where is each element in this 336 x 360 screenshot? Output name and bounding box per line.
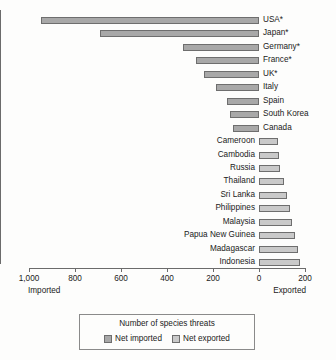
bar-category-label: Canada bbox=[263, 121, 292, 134]
bar-category-label: Japan* bbox=[263, 26, 289, 39]
bar-category-label: Indonesia bbox=[219, 255, 255, 268]
bar-imported bbox=[233, 125, 259, 132]
legend-swatch-icon bbox=[172, 335, 180, 343]
axis-label-exported: Exported bbox=[273, 286, 306, 295]
bar-category-label: South Korea bbox=[263, 107, 309, 120]
bar-imported bbox=[41, 17, 260, 24]
legend-label: Net exported bbox=[183, 334, 230, 343]
bar-category-label: Malaysia bbox=[223, 215, 255, 228]
legend-items: Net importedNet exported bbox=[80, 334, 254, 343]
bar-imported bbox=[196, 57, 259, 64]
bar-imported bbox=[227, 98, 259, 105]
axis-label-imported: Imported bbox=[28, 286, 60, 295]
bar-row: Sri Lanka bbox=[0, 189, 336, 203]
x-tick bbox=[167, 268, 168, 272]
bar-imported bbox=[230, 111, 259, 118]
bar-row: Malaysia bbox=[0, 216, 336, 230]
bar-row: Madagascar bbox=[0, 243, 336, 257]
bar-row: France* bbox=[0, 54, 336, 68]
bar-imported bbox=[216, 84, 259, 91]
bar-row: Papua New Guinea bbox=[0, 229, 336, 243]
bar-row: Russia bbox=[0, 162, 336, 176]
bar-category-label: Germany* bbox=[263, 40, 300, 53]
bar-category-label: Thailand bbox=[224, 174, 255, 187]
bar-exported bbox=[259, 165, 280, 172]
x-tick bbox=[213, 268, 214, 272]
legend-item: Net imported bbox=[104, 334, 162, 343]
bar-exported bbox=[259, 219, 292, 226]
x-tick bbox=[29, 268, 30, 272]
x-tick bbox=[259, 268, 260, 272]
legend-item: Net exported bbox=[172, 334, 230, 343]
legend-title: Number of species threats bbox=[80, 319, 254, 328]
bar-category-label: Russia bbox=[230, 161, 255, 174]
x-tick bbox=[121, 268, 122, 272]
bar-row: Italy bbox=[0, 81, 336, 95]
x-tick bbox=[75, 268, 76, 272]
bar-imported bbox=[204, 71, 259, 78]
x-tick-label: 200 bbox=[298, 274, 312, 283]
bar-imported bbox=[100, 30, 259, 37]
bar-row: Canada bbox=[0, 122, 336, 136]
bar-category-label: Italy bbox=[263, 80, 278, 93]
bar-category-label: Sri Lanka bbox=[220, 188, 255, 201]
plot-area: USA*Japan*Germany*France*UK*ItalySpainSo… bbox=[0, 0, 336, 272]
bar-category-label: Spain bbox=[263, 94, 284, 107]
bar-row: Thailand bbox=[0, 175, 336, 189]
bar-category-label: UK* bbox=[263, 67, 278, 80]
bar-row: Cameroon bbox=[0, 135, 336, 149]
bar-category-label: Papua New Guinea bbox=[184, 228, 255, 241]
x-axis: 1,0008006004002000200 Imported Exported bbox=[0, 268, 336, 308]
bar-row: Cambodia bbox=[0, 149, 336, 163]
x-tick-label: 1,000 bbox=[19, 274, 40, 283]
bar-exported bbox=[259, 205, 290, 212]
bar-category-label: USA* bbox=[263, 13, 283, 26]
legend: Number of species threats Net importedNe… bbox=[79, 314, 255, 350]
bar-exported bbox=[259, 192, 287, 199]
x-tick bbox=[305, 268, 306, 272]
bar-row: UK* bbox=[0, 68, 336, 82]
bar-category-label: Cameroon bbox=[217, 134, 255, 147]
bar-row: Philippines bbox=[0, 202, 336, 216]
chart-figure: USA*Japan*Germany*France*UK*ItalySpainSo… bbox=[0, 0, 336, 360]
x-tick-label: 0 bbox=[257, 274, 262, 283]
legend-swatch-icon bbox=[104, 335, 112, 343]
bar-exported bbox=[259, 152, 279, 159]
bar-exported bbox=[259, 246, 298, 253]
bar-category-label: Madagascar bbox=[210, 242, 255, 255]
bar-exported bbox=[259, 138, 278, 145]
bar-category-label: Cambodia bbox=[218, 148, 255, 161]
bar-category-label: Philippines bbox=[215, 201, 255, 214]
x-tick-label: 200 bbox=[206, 274, 220, 283]
bar-exported bbox=[259, 232, 295, 239]
x-tick-label: 400 bbox=[160, 274, 174, 283]
x-tick-label: 600 bbox=[114, 274, 128, 283]
bar-imported bbox=[183, 44, 259, 51]
x-tick-label: 800 bbox=[68, 274, 82, 283]
legend-label: Net imported bbox=[115, 334, 162, 343]
bar-category-label: France* bbox=[263, 53, 292, 66]
bar-exported bbox=[259, 178, 284, 185]
bar-exported bbox=[259, 259, 300, 266]
